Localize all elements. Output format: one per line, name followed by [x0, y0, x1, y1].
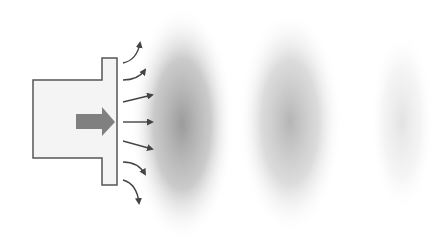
diagram-canvas	[0, 0, 447, 244]
radiating-arrow-1	[123, 43, 140, 63]
wavefront-1	[130, 6, 234, 242]
sound-wave-diagram	[0, 0, 447, 244]
wavefront-3	[370, 30, 434, 214]
wavefront-2	[238, 10, 342, 234]
radiating-arrow-7	[123, 180, 139, 203]
wavefronts	[130, 6, 434, 242]
